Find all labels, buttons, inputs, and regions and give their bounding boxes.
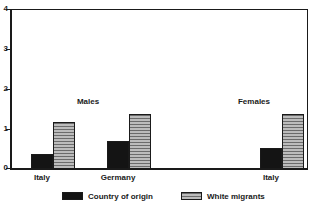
y-tick-label-4: 4 [0,5,8,13]
legend-item-country-of-origin: Country of origin [62,190,153,202]
y-tick-label-1: 1 [0,125,8,133]
bar-males-germany-migrants [129,114,151,169]
bar-females-italy-migrants [282,114,304,169]
legend-label-country-of-origin: Country of origin [88,192,153,201]
legend-swatch-country-of-origin [62,192,83,200]
bar-males-italy-origin [31,154,53,169]
bar-chart-figure: 4 3 2 1 0 Males Females Italy Germany It… [0,0,319,208]
x-label-males-germany: Germany [93,173,143,182]
legend-swatch-white-migrants [181,192,202,200]
legend-item-white-migrants: White migrants [181,190,265,202]
bar-females-italy-origin [260,148,282,169]
bars-layer [11,10,307,169]
chart-legend: Country of origin White migrants [0,190,319,204]
x-label-males-italy: Italy [17,173,67,182]
y-tick-label-0: 0 [0,164,8,172]
x-label-females-italy: Italy [246,173,296,182]
panel-label-females: Females [226,97,282,106]
panel-label-males: Males [63,97,113,106]
bar-males-germany-origin [107,141,129,169]
y-tick-label-3: 3 [0,45,8,53]
legend-label-white-migrants: White migrants [207,192,265,201]
y-tick-label-2: 2 [0,85,8,93]
bar-males-italy-migrants [53,122,75,169]
